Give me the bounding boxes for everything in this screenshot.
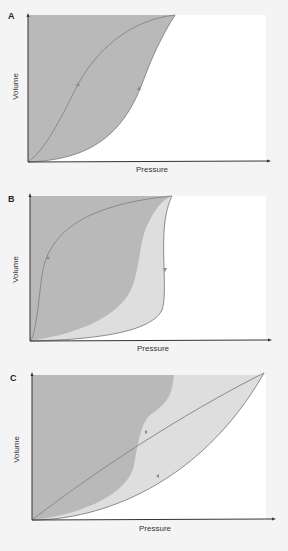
y-axis-label: Volume [12,436,21,463]
y-axis-label: Volume [11,73,20,100]
x-axis-label: Pressure [139,524,171,533]
panel-a: A Pressure Volume [0,0,288,185]
panel-c: C Pressure Volume [0,365,288,551]
x-axis-label: Pressure [136,165,168,174]
panel-b: B Pressure Volume [0,185,288,365]
panel-b-plot [0,185,288,365]
x-axis-label: Pressure [137,344,169,353]
y-axis-label: Volume [11,256,20,283]
panel-a-plot [0,0,288,185]
